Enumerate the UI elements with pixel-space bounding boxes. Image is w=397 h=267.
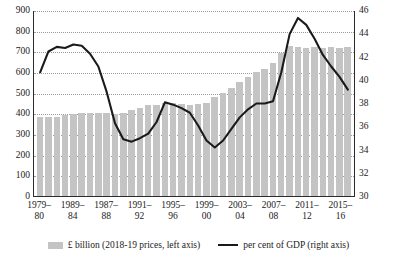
bar-swatch-icon: [48, 242, 63, 249]
x-tick-label: 1999–00: [195, 200, 219, 222]
y-tick-left: 700: [16, 48, 34, 58]
x-tick-label: 1979–80: [27, 200, 51, 222]
plot-area: 0100200300400500600700800900 30323436384…: [33, 11, 355, 197]
y-tick-left: 200: [16, 151, 34, 161]
chart-figure: 0100200300400500600700800900 30323436384…: [0, 0, 397, 267]
line-series: [34, 11, 354, 196]
x-tick-label: 2011–12: [295, 200, 318, 222]
x-tick-label: 2003–04: [228, 200, 252, 222]
y-tick-left: 300: [16, 130, 34, 140]
legend-label-line: per cent of GDP (right axis): [243, 240, 349, 250]
y-tick-right: 46: [354, 6, 369, 16]
y-tick-right: 38: [354, 99, 369, 109]
y-tick-right: 42: [354, 53, 369, 63]
x-axis-ticks: 1979–801989–841987–881991–921995–961999–…: [33, 200, 355, 226]
legend-item-line: per cent of GDP (right axis): [218, 240, 349, 250]
y-tick-right: 34: [354, 146, 369, 156]
x-tick-label: 1991–92: [128, 200, 152, 222]
y-tick-right: 40: [354, 76, 369, 86]
y-tick-right: 30: [354, 192, 369, 202]
y-tick-left: 100: [16, 172, 34, 182]
y-tick-left: 600: [16, 68, 34, 78]
y-tick-left: 900: [16, 6, 34, 16]
x-tick-label: 1995–96: [161, 200, 185, 222]
y-tick-right: 36: [354, 123, 369, 133]
gdp-percent-line: [40, 18, 348, 147]
y-tick-right: 32: [354, 169, 369, 179]
line-swatch-icon: [218, 244, 238, 246]
x-tick-label: 2007–08: [262, 200, 286, 222]
chart-legend: £ billion (2018-19 prices, left axis) pe…: [0, 240, 397, 250]
x-tick-label: 1987–88: [94, 200, 118, 222]
y-tick-left: 400: [16, 110, 34, 120]
x-tick-label: 2015–16: [329, 200, 353, 222]
y-tick-left: 800: [16, 27, 34, 37]
y-tick-right: 44: [354, 30, 369, 40]
legend-item-bar: £ billion (2018-19 prices, left axis): [48, 240, 200, 250]
x-tick-label: 1989–84: [61, 200, 85, 222]
legend-label-bar: £ billion (2018-19 prices, left axis): [68, 240, 200, 250]
y-tick-left: 500: [16, 89, 34, 99]
